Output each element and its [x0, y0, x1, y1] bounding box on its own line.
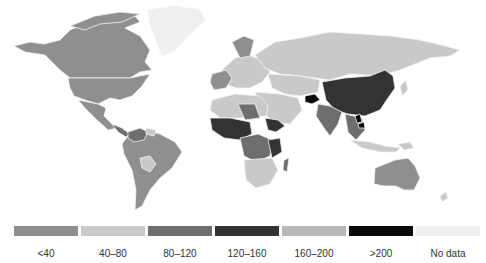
region-western-europe: [210, 70, 232, 90]
region-southern-africa: [244, 158, 278, 188]
legend-item-160-200: 160–200: [282, 226, 346, 259]
region-afghanistan: [305, 94, 320, 104]
legend-swatch: [81, 226, 145, 236]
legend-item-nodata: No data: [416, 226, 480, 259]
legend-item-lt40: <40: [14, 226, 78, 259]
world-map: [0, 0, 486, 215]
legend-item-120-160: 120–160: [215, 226, 279, 259]
legend-label: No data: [416, 248, 480, 259]
region-new-zealand: [440, 192, 448, 202]
region-australia: [374, 158, 420, 190]
region-greenland: [148, 6, 205, 56]
region-papua: [398, 142, 414, 150]
legend-swatch: [215, 226, 279, 236]
map-legend: <40 40–80 80–120 120–160 160–200 >200 No…: [0, 222, 486, 263]
region-indonesia: [350, 140, 400, 152]
legend-label: 120–160: [215, 248, 279, 259]
legend-label: 40–80: [81, 248, 145, 259]
region-scandinavia: [232, 36, 254, 58]
legend-swatch: [349, 226, 413, 236]
legend-swatch: [148, 226, 212, 236]
legend-label: <40: [14, 248, 78, 259]
region-mexico: [78, 100, 118, 130]
legend-swatch: [14, 226, 78, 236]
legend-item-gt200: >200: [349, 226, 413, 259]
region-usa: [68, 74, 150, 104]
legend-label: 160–200: [282, 248, 346, 259]
region-central-america: [112, 124, 130, 137]
legend-item-40-80: 40–80: [81, 226, 145, 259]
legend-label: 80–120: [148, 248, 212, 259]
legend-label: >200: [349, 248, 413, 259]
region-madagascar: [283, 158, 289, 172]
region-russia: [255, 32, 460, 80]
legend-item-80-120: 80–120: [148, 226, 212, 259]
legend-swatch: [282, 226, 346, 236]
region-japan: [400, 80, 408, 96]
region-central-africa: [240, 134, 272, 162]
legend-swatch: [416, 226, 480, 236]
